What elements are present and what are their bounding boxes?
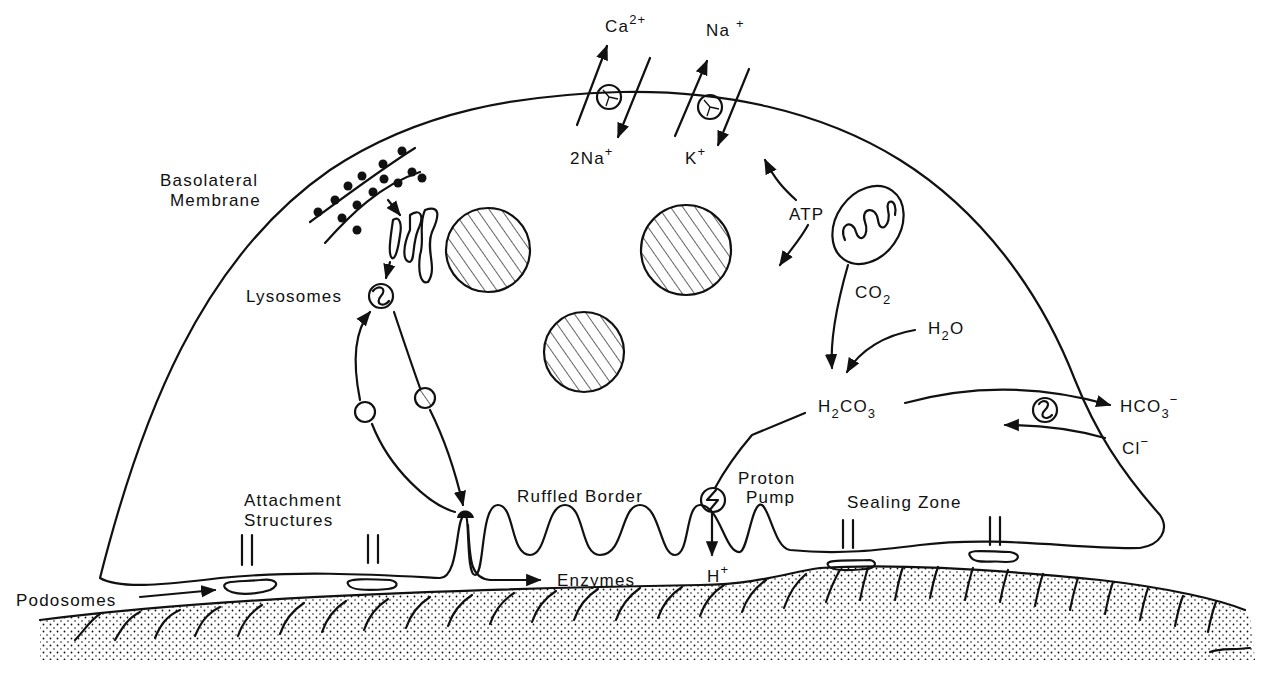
atp-label: ATP	[789, 206, 824, 223]
na-ion-label: Na +	[706, 22, 745, 39]
sealing-zone-label: Sealing Zone	[847, 494, 962, 511]
nucleus	[446, 208, 530, 292]
h2o-label: H2O	[928, 320, 964, 337]
enzymes-label: Enzymes	[557, 572, 635, 589]
ruffled-border-label: Ruffled Border	[517, 488, 643, 505]
attachment-structures-label: AttachmentStructures	[244, 492, 342, 529]
sealing-zone-markers	[843, 517, 1000, 548]
lysosome	[369, 284, 393, 308]
golgi	[390, 209, 438, 283]
proton-pump-label: ProtonPump	[738, 470, 795, 506]
two-na-ion-label: 2Na+	[570, 150, 614, 167]
na-k-pump	[675, 61, 749, 145]
proton-pump-icon	[701, 488, 725, 512]
k-ion-label: K+	[685, 150, 706, 167]
basolateral-membrane-label: BasolateralMembrane	[160, 172, 261, 209]
attachment-markers	[242, 535, 378, 565]
podosomes-label: Podosomes	[16, 592, 117, 609]
ca-ion-label: Ca2+	[605, 18, 646, 35]
empty-vesicle	[355, 402, 375, 422]
nucleus	[641, 205, 731, 295]
bone-matrix	[40, 566, 1255, 660]
h2co3-label: H2CO3	[818, 398, 876, 415]
lysosomes-label: Lysosomes	[246, 288, 342, 305]
mitochondrion	[818, 172, 919, 278]
nucleus	[544, 312, 624, 392]
cl-label: Cl−	[1122, 440, 1149, 457]
hco3-label: HCO3−	[1120, 398, 1179, 415]
h-plus-label: H+	[707, 568, 729, 585]
hco3-cl-exchanger	[1033, 398, 1057, 422]
osteoclast-diagram: Ca2+ Na + 2Na+ K+ BasolateralMembrane Ly…	[0, 0, 1265, 678]
co2-label: CO2	[855, 284, 891, 301]
vesicle-fusion	[457, 511, 474, 519]
enzyme-vesicle	[415, 388, 435, 408]
